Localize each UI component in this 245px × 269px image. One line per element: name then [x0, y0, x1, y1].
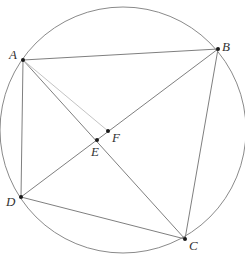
label-a: A [8, 47, 17, 62]
circle [0, 7, 245, 253]
label-b: B [222, 39, 230, 54]
label-f: F [111, 130, 121, 145]
segment-ac [23, 60, 185, 239]
point-a [21, 58, 25, 62]
label-d: D [5, 194, 16, 209]
segment-bd [21, 49, 218, 197]
label-e: E [90, 144, 99, 159]
point-b [216, 47, 220, 51]
circumscribed-circle [0, 7, 245, 253]
point-f [106, 129, 110, 133]
segment-bc [185, 49, 218, 239]
geometry-diagram: ABCDEF [0, 0, 245, 269]
label-c: C [189, 238, 198, 253]
segment-ad [21, 60, 23, 197]
segment-af [23, 60, 108, 131]
point-c [183, 237, 187, 241]
segment-ab [23, 49, 218, 60]
point-d [19, 195, 23, 199]
segment-dc [21, 197, 185, 239]
point-e [95, 138, 99, 142]
point-labels: ABCDEF [5, 39, 230, 253]
